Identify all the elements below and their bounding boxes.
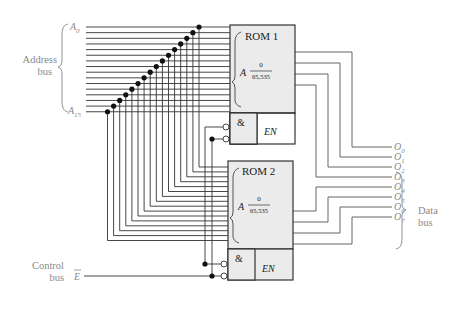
address-taps bbox=[108, 27, 229, 241]
rom1-output-o3 bbox=[295, 85, 392, 177]
rom2-title: ROM 2 bbox=[242, 165, 275, 177]
address-junction-a14 bbox=[111, 104, 116, 109]
address-junction-a9 bbox=[142, 75, 147, 80]
control-bus-label-group: Control bus E bbox=[32, 260, 81, 283]
address-tap-a1 bbox=[193, 33, 228, 172]
address-tap-a3 bbox=[181, 44, 228, 182]
rom2-en-label: EN bbox=[261, 263, 276, 274]
rom2-output-o5 bbox=[293, 197, 392, 222]
address-lines bbox=[86, 27, 230, 112]
control-e-label: E bbox=[73, 271, 80, 282]
rom1-address-label: A bbox=[239, 67, 247, 78]
address-junction-a13 bbox=[117, 98, 122, 103]
address-junction-a15 bbox=[105, 109, 110, 114]
rom1-range-bottom: 65,535 bbox=[252, 73, 270, 80]
rom2-inverter-bubble-1 bbox=[221, 261, 227, 267]
address-bus-label-group: Address bus A0 A15 bbox=[23, 21, 82, 119]
address-tap-a0 bbox=[199, 27, 228, 167]
address-junction-a5 bbox=[166, 53, 171, 58]
rom1-and-label: & bbox=[237, 117, 245, 128]
rom2-range-bottom: 65,535 bbox=[250, 207, 268, 214]
address-a15-label: A15 bbox=[67, 105, 82, 119]
address-junction-a1 bbox=[190, 30, 195, 35]
address-junction-a3 bbox=[178, 41, 183, 46]
address-tap-a7 bbox=[156, 67, 228, 202]
e-junction-rom1 bbox=[209, 136, 214, 141]
rom2-inverter-bubble-2 bbox=[221, 273, 227, 279]
enable-wiring bbox=[84, 127, 223, 279]
rom2-output-o7 bbox=[293, 217, 392, 244]
address-junction-a0 bbox=[196, 24, 201, 29]
address-junction-a10 bbox=[135, 81, 140, 86]
rom1-output-o1 bbox=[295, 63, 392, 157]
data-bus-label-line1: Data bbox=[418, 205, 438, 216]
rom1-en-label: EN bbox=[263, 126, 278, 137]
rom1-inverter-bubble-1 bbox=[223, 124, 229, 130]
rom2-range-top: 0 bbox=[257, 195, 261, 203]
address-junction-a7 bbox=[154, 64, 159, 69]
control-bus-label-line1: Control bbox=[32, 260, 64, 271]
data-bus-label-group: Data bus O0O1O2O3O4O5O6O7 bbox=[394, 141, 438, 249]
data-bus-label-line2: bus bbox=[418, 217, 433, 228]
rom1-output-o0 bbox=[295, 52, 392, 147]
address-tap-a6 bbox=[162, 61, 228, 197]
control-bus-label-line2: bus bbox=[49, 272, 64, 283]
address-junction-a8 bbox=[148, 70, 153, 75]
e-junction-rom2 bbox=[209, 273, 214, 278]
address-tap-a5 bbox=[169, 55, 229, 191]
a15-junction-rom2 bbox=[202, 261, 207, 266]
address-bus-label-line2: bus bbox=[37, 66, 52, 77]
address-junction-a12 bbox=[123, 92, 128, 97]
address-junction-a11 bbox=[129, 87, 134, 92]
address-a0-label: A0 bbox=[69, 21, 80, 35]
rom2-block: ROM 2 A 0 65,535 & EN bbox=[221, 161, 293, 280]
address-junction-a6 bbox=[160, 58, 165, 63]
address-bus-label-line1: Address bbox=[23, 54, 57, 65]
rom1-range-top: 0 bbox=[259, 61, 263, 69]
rom1-title: ROM 1 bbox=[245, 30, 278, 42]
rom1-inverter-bubble-2 bbox=[223, 136, 229, 142]
rom2-and-label: & bbox=[235, 253, 243, 264]
rom1-output-o2 bbox=[295, 74, 392, 167]
rom2-address-label: A bbox=[237, 201, 245, 212]
rom1-block: ROM 1 A 0 65,535 & EN bbox=[223, 25, 295, 144]
address-junction-a2 bbox=[184, 36, 189, 41]
data-output-wires bbox=[293, 52, 392, 244]
address-bus-brace bbox=[58, 24, 68, 112]
rom-expansion-diagram: ROM 1 A 0 65,535 & EN ROM 2 A 0 65,535 &… bbox=[0, 0, 467, 309]
address-junction-a4 bbox=[172, 47, 177, 52]
address-tap-a4 bbox=[175, 50, 228, 187]
